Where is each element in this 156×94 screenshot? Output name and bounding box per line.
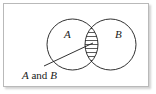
label-set-b: B	[115, 28, 122, 40]
callout-label: A and B	[21, 69, 57, 81]
callout-part-b: B	[50, 69, 57, 81]
figure-canvas: A B A and B	[0, 0, 156, 94]
callout-part-and: and	[29, 69, 50, 81]
label-set-a: A	[63, 28, 71, 40]
venn-diagram: A B A and B	[0, 0, 156, 94]
callout-leader-line	[44, 43, 93, 66]
